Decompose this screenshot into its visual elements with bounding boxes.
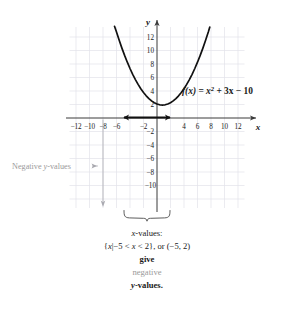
equation-equals: = (196, 86, 206, 96)
function-equation-label: f(x) = x2 + 3x − 10 (182, 85, 253, 97)
svg-text:12: 12 (147, 34, 155, 42)
caption-line-2: {x|−5 < x < 2}, or (−5, 2) (104, 241, 191, 251)
svg-text:8: 8 (209, 123, 213, 131)
svg-text:10: 10 (221, 123, 229, 131)
caption5-tail: -values. (135, 280, 163, 290)
negative-y-values-note: Negative y-values (12, 162, 71, 171)
caption2-mid: |−5 < (112, 241, 132, 251)
svg-text:8: 8 (150, 61, 154, 69)
x-values-brace (124, 211, 170, 222)
svg-text:−10: −10 (145, 182, 157, 190)
note-lead: Negative (12, 162, 44, 171)
svg-text:4: 4 (150, 88, 154, 96)
x-tick-labels: −12 −10 −8 −6 −2 4 6 8 10 12 (70, 123, 242, 131)
equation-rest: + 3x − 10 (214, 86, 253, 96)
y-axis-label: y (145, 17, 151, 27)
note-tail: -values (47, 162, 71, 171)
svg-text:−8: −8 (146, 169, 154, 177)
quadratic-function-figure: y x −12 −10 −8 −6 −2 4 6 8 10 12 12 10 8… (0, 0, 285, 314)
y-tick-labels: 12 10 8 6 4 2 −2 −4 −6 −8 −10 (145, 34, 157, 191)
negative-interval-segment (123, 115, 170, 121)
svg-text:12: 12 (234, 123, 242, 131)
caption1-tail: -values: (135, 228, 162, 238)
equation-fx: f(x) (182, 86, 196, 97)
svg-text:6: 6 (196, 123, 200, 131)
caption-line-3: give (140, 254, 155, 264)
caption-line-4: negative (132, 267, 161, 277)
caption-line-1: x-values: (130, 228, 162, 238)
svg-text:−12: −12 (70, 123, 82, 131)
x-axis-label: x (255, 122, 261, 132)
svg-text:−6: −6 (113, 123, 121, 131)
axes (66, 20, 256, 212)
svg-text:−10: −10 (84, 123, 96, 131)
graph-canvas: y x −12 −10 −8 −6 −2 4 6 8 10 12 12 10 8… (0, 0, 285, 314)
caption2-tail: < 2}, or (−5, 2) (136, 241, 191, 251)
svg-text:10: 10 (147, 47, 155, 55)
svg-text:−4: −4 (146, 142, 154, 150)
negative-y-direction-arrow-icon (101, 120, 106, 208)
svg-text:6: 6 (150, 74, 154, 82)
svg-text:−6: −6 (146, 155, 154, 163)
svg-text:−2: −2 (146, 128, 154, 136)
caption-line-5: y-values. (130, 280, 163, 290)
svg-text:4: 4 (182, 123, 186, 131)
